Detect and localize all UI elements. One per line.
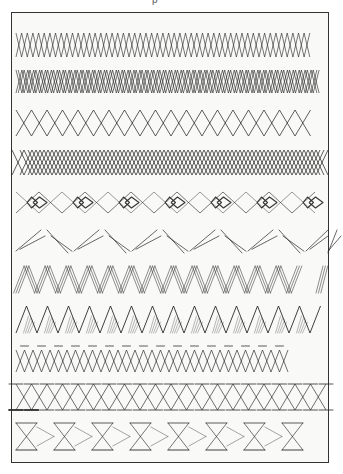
- pattern-row-sparse-hourglass-band: [16, 423, 303, 450]
- pattern-row-zigzag-with-hatched-triangles: [16, 306, 321, 333]
- pattern-row-bowtie-lattice-double-triangles: [9, 384, 333, 410]
- pattern-row-triple-offset-diamond-lattice: [12, 150, 328, 175]
- pattern-row-double-chevron: [16, 230, 341, 253]
- pattern-row-simple-x-lattice: [16, 33, 310, 57]
- pattern-row-diamond-chain-with-nested-clusters: [16, 192, 323, 213]
- pattern-drawings: [0, 0, 343, 474]
- pattern-row-hatched-triple-zigzag: [14, 266, 328, 293]
- pattern-row-x-lattice-with-top-triangles: [16, 346, 288, 372]
- pattern-row-wide-diamond-chain: [16, 110, 311, 136]
- pattern-row-double-x-lattice: [16, 70, 319, 93]
